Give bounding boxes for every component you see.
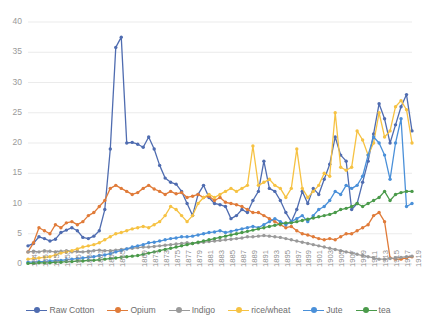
data-point: [224, 190, 227, 193]
legend-label: Indigo: [192, 305, 215, 315]
data-point: [344, 159, 347, 162]
data-point: [339, 208, 342, 211]
data-point: [136, 254, 139, 257]
x-tick-label: 1899: [305, 250, 313, 267]
data-point: [290, 225, 293, 228]
data-point: [136, 226, 139, 229]
data-point: [213, 230, 216, 233]
data-point: [114, 232, 117, 235]
data-point: [372, 135, 375, 138]
data-point: [251, 225, 254, 228]
data-point: [81, 236, 84, 239]
data-point: [334, 190, 337, 193]
data-point: [361, 181, 364, 184]
data-point: [240, 205, 243, 208]
data-point: [229, 230, 232, 233]
x-tick-label: 1889: [251, 250, 259, 267]
data-point: [273, 184, 276, 187]
data-point: [306, 242, 309, 245]
data-point: [284, 226, 287, 229]
x-tick-label: 1879: [196, 250, 204, 267]
data-point: [213, 196, 216, 199]
x-tick-label: 1897: [295, 250, 303, 267]
legend-item-opium[interactable]: Opium: [107, 305, 155, 315]
data-point: [350, 187, 353, 190]
x-tick-label: 1893: [273, 250, 281, 267]
legend-swatch-icon: [107, 306, 128, 315]
data-point: [312, 216, 315, 219]
data-point: [405, 93, 408, 96]
legend-item-indigo[interactable]: Indigo: [169, 305, 215, 315]
data-point: [224, 205, 227, 208]
data-point: [142, 243, 145, 246]
data-point: [246, 184, 249, 187]
data-point: [185, 243, 188, 246]
data-point: [240, 208, 243, 211]
x-tick-label: 1859: [86, 250, 94, 267]
data-point: [317, 184, 320, 187]
x-tick-label: 1895: [284, 250, 292, 267]
data-point: [323, 178, 326, 181]
data-point: [196, 193, 199, 196]
data-point: [43, 229, 46, 232]
data-point: [224, 231, 227, 234]
x-tick-label: 1881: [207, 250, 215, 267]
legend-item-tea[interactable]: tea: [356, 305, 391, 315]
data-point: [295, 217, 298, 220]
data-point: [229, 187, 232, 190]
data-point: [109, 147, 112, 150]
data-point: [262, 214, 265, 217]
data-point: [191, 234, 194, 237]
data-point: [279, 199, 282, 202]
data-point: [268, 178, 271, 181]
data-point: [388, 178, 391, 181]
data-point: [273, 235, 276, 238]
legend-label: Opium: [130, 305, 155, 315]
legend-item-jute[interactable]: Jute: [303, 305, 342, 315]
data-point: [279, 236, 282, 239]
y-tick-label: 10: [2, 199, 22, 208]
data-point: [202, 232, 205, 235]
legend-item-rice-wheat[interactable]: rice/wheat: [228, 305, 290, 315]
data-point: [147, 245, 150, 248]
data-point: [344, 169, 347, 172]
data-point: [103, 238, 106, 241]
data-point: [224, 234, 227, 237]
data-point: [169, 190, 172, 193]
y-tick-label: 25: [2, 108, 22, 117]
data-point: [317, 215, 320, 218]
data-point: [372, 199, 375, 202]
data-point: [207, 193, 210, 196]
data-point: [147, 226, 150, 229]
data-point: [114, 184, 117, 187]
data-point: [323, 205, 326, 208]
legend-label: tea: [379, 305, 391, 315]
data-point: [339, 235, 342, 238]
chart-legend: Raw CottonOpiumIndigorice/wheatJutetea: [0, 300, 417, 320]
data-point: [70, 226, 73, 229]
data-point: [87, 244, 90, 247]
data-point: [290, 221, 293, 224]
y-tick-label: 20: [2, 138, 22, 147]
data-point: [334, 238, 337, 241]
x-tick-label: 1861: [97, 250, 105, 267]
data-point: [279, 187, 282, 190]
data-point: [163, 193, 166, 196]
data-point: [163, 214, 166, 217]
data-point: [323, 245, 326, 248]
data-point: [268, 225, 271, 228]
data-point: [301, 187, 304, 190]
data-point: [377, 211, 380, 214]
data-point: [218, 236, 221, 239]
data-point: [235, 190, 238, 193]
data-point: [301, 219, 304, 222]
data-point: [240, 187, 243, 190]
data-point: [383, 190, 386, 193]
legend-swatch-icon: [356, 306, 377, 315]
data-point: [388, 129, 391, 132]
series-line: [28, 101, 412, 260]
data-point: [87, 237, 90, 240]
legend-item-raw-cotton[interactable]: Raw Cotton: [26, 305, 94, 315]
data-point: [152, 241, 155, 244]
data-point: [229, 233, 232, 236]
